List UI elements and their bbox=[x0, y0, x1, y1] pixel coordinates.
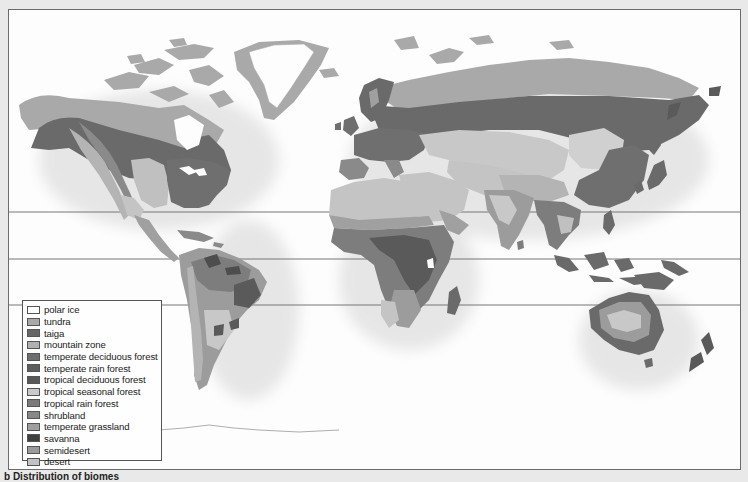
legend-item-shrubland: shrubland bbox=[27, 409, 161, 421]
biome-map: polar ice tundra taiga mountain zone tem… bbox=[8, 9, 741, 470]
legend-label: tropical rain forest bbox=[44, 398, 118, 409]
biome-legend: polar ice tundra taiga mountain zone tem… bbox=[22, 300, 162, 461]
swatch-tundra bbox=[27, 318, 40, 326]
swatch-desert bbox=[27, 458, 40, 466]
legend-label: semidesert bbox=[44, 445, 90, 456]
legend-item-tropical-seasonal-forest: tropical seasonal forest bbox=[27, 386, 161, 398]
legend-label: temperate grassland bbox=[44, 421, 130, 432]
swatch-shrubland bbox=[27, 411, 40, 419]
legend-item-taiga: taiga bbox=[27, 327, 161, 339]
legend-item-semidesert: semidesert bbox=[27, 444, 161, 456]
swatch-semidesert bbox=[27, 446, 40, 454]
legend-item-savanna: savanna bbox=[27, 433, 161, 445]
swatch-tropical-seasonal-forest bbox=[27, 388, 40, 396]
legend-label: desert bbox=[44, 456, 70, 467]
legend-label: taiga bbox=[44, 328, 64, 339]
swatch-temperate-rain-forest bbox=[27, 364, 40, 372]
swatch-taiga bbox=[27, 329, 40, 337]
swatch-tropical-rain-forest bbox=[27, 399, 40, 407]
legend-label: temperate deciduous forest bbox=[44, 351, 158, 362]
swatch-mountain-zone bbox=[27, 341, 40, 349]
legend-item-polar-ice: polar ice bbox=[27, 304, 161, 316]
legend-item-mountain-zone: mountain zone bbox=[27, 339, 161, 351]
legend-item-temperate-grassland: temperate grassland bbox=[27, 421, 161, 433]
swatch-polar-ice bbox=[27, 306, 40, 314]
figure-caption: b Distribution of biomes bbox=[4, 471, 119, 482]
swatch-savanna bbox=[27, 434, 40, 442]
legend-label: tropical deciduous forest bbox=[44, 374, 146, 385]
legend-item-tropical-deciduous-forest: tropical deciduous forest bbox=[27, 374, 161, 386]
swatch-tropical-deciduous-forest bbox=[27, 376, 40, 384]
legend-label: savanna bbox=[44, 433, 80, 444]
swatch-temperate-grassland bbox=[27, 423, 40, 431]
legend-item-temperate-rain-forest: temperate rain forest bbox=[27, 362, 161, 374]
legend-label: temperate rain forest bbox=[44, 363, 130, 374]
legend-item-desert: desert bbox=[27, 456, 161, 468]
legend-label: tropical seasonal forest bbox=[44, 386, 140, 397]
legend-item-tropical-rain-forest: tropical rain forest bbox=[27, 398, 161, 410]
legend-item-temperate-deciduous-forest: temperate deciduous forest bbox=[27, 351, 161, 363]
legend-label: mountain zone bbox=[44, 339, 106, 350]
swatch-temperate-deciduous-forest bbox=[27, 353, 40, 361]
legend-item-tundra: tundra bbox=[27, 316, 161, 328]
legend-label: shrubland bbox=[44, 410, 85, 421]
legend-label: tundra bbox=[44, 316, 71, 327]
legend-label: polar ice bbox=[44, 304, 79, 315]
